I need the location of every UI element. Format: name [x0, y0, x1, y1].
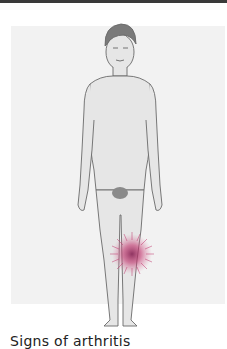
figure-caption: Signs of arthritis	[10, 333, 131, 349]
pubic-region	[112, 187, 128, 199]
